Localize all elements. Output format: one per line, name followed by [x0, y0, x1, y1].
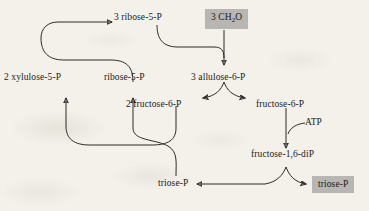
edge-f16dip-split-left	[197, 167, 286, 184]
node-label: 3 ribose-5-P	[114, 12, 162, 22]
node-ribose-5-p-top: 3 ribose-5-P	[114, 12, 162, 23]
node-ribose-5-p-mid: ribose-5-P	[104, 72, 145, 83]
node-label-ch2o-post: O	[235, 12, 242, 22]
node-label: triose-P	[158, 178, 188, 188]
node-ch2o: 3 CH2O	[205, 9, 248, 29]
node-label: 2 fructose-6-P	[126, 99, 181, 109]
node-fructose-1-6-dip: fructose-1,6-diP	[251, 149, 314, 160]
edge-allulose-split-right	[224, 82, 245, 98]
node-label: 2 xylulose-5-P	[4, 72, 61, 82]
node-xylulose-5-p: 2 xylulose-5-P	[4, 72, 61, 83]
node-label: fructose-1,6-diP	[251, 149, 314, 159]
node-label: 3 allulose-6-P	[191, 72, 245, 82]
node-label: fructose-6-P	[256, 99, 304, 109]
edge-allulose-split-left	[203, 82, 224, 98]
pathway-diagram: down to 3 allulose-6-P --> 3 ribose-5-P …	[0, 0, 369, 211]
node-label-ch2o-pre: 3 CH	[211, 12, 232, 22]
node-fructose-6-p: fructose-6-P	[256, 99, 304, 110]
node-fructose-6-p-two: 2 fructose-6-P	[126, 99, 181, 110]
node-label: ribose-5-P	[104, 72, 145, 82]
node-triose-p-left: triose-P	[158, 178, 188, 189]
edge-ribose5p-top-to-allulose	[157, 25, 224, 58]
edge-atp-hook	[288, 123, 305, 134]
cofactor-atp: ATP	[305, 117, 322, 127]
node-allulose-6-p: 3 allulose-6-P	[191, 72, 245, 83]
cofactor-label: ATP	[305, 117, 322, 127]
node-triose-p-right: triose-P	[312, 176, 354, 193]
edge-f16dip-split-right	[286, 167, 306, 184]
node-label: triose-P	[318, 179, 348, 189]
